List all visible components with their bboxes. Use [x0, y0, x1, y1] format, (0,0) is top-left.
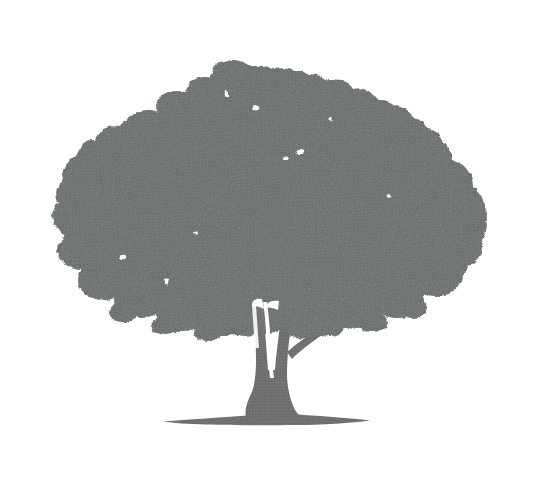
illustration-canvas: Gray silhouette of a wide spreading deci… — [0, 0, 535, 489]
tree-illustration: Gray silhouette of a wide spreading deci… — [0, 0, 535, 489]
print-texture-overlay — [70, 77, 466, 333]
